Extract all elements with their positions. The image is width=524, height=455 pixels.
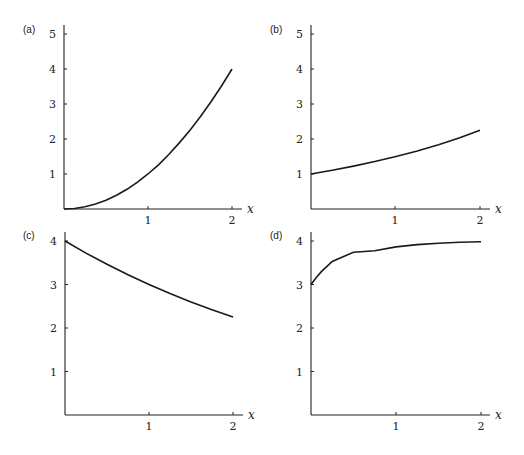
curve — [311, 242, 481, 285]
panel-label: (c) — [23, 230, 35, 241]
y-tick-label: 2 — [296, 133, 303, 146]
y-tick-label: 2 — [296, 322, 303, 335]
panel-label: (b) — [270, 24, 282, 35]
y-tick-label: 5 — [296, 28, 303, 41]
x-tick-label: 1 — [392, 214, 399, 227]
panel-c: (c) 1 2 3 4 1 2 x — [23, 230, 255, 433]
x-tick-label: 2 — [477, 214, 484, 227]
y-tick-label: 1 — [50, 366, 57, 379]
x-tick-label: 2 — [229, 214, 236, 227]
x-tick-label: 1 — [393, 420, 400, 433]
y-tick-label: 3 — [49, 98, 56, 111]
x-tick-label: 1 — [145, 214, 152, 227]
y-tick-label: 2 — [50, 322, 57, 335]
panel-b: (b) 1 2 3 4 5 1 2 x — [270, 24, 502, 227]
y-tick-label: 5 — [49, 28, 56, 41]
panel-label: (a) — [23, 24, 35, 35]
y-tick-label: 3 — [296, 279, 303, 292]
curve — [65, 241, 233, 317]
y-tick-label: 4 — [50, 235, 57, 248]
y-tick-label: 3 — [296, 98, 303, 111]
x-tick-label: 1 — [146, 420, 153, 433]
panel-label: (d) — [270, 230, 282, 241]
y-tick-label: 2 — [49, 133, 56, 146]
curve — [311, 130, 480, 174]
y-tick-label: 1 — [49, 168, 56, 181]
y-tick-label: 3 — [50, 279, 57, 292]
y-tick-label: 4 — [296, 235, 303, 248]
panel-a: (a) 1 2 3 4 5 1 2 x — [23, 24, 254, 227]
y-tick-label: 1 — [296, 366, 303, 379]
figure: (a) 1 2 3 4 5 1 2 x (b) — [0, 0, 524, 455]
x-tick-label: 2 — [230, 420, 237, 433]
x-axis-label: x — [495, 202, 502, 216]
y-tick-label: 4 — [49, 63, 56, 76]
x-axis-label: x — [495, 408, 502, 422]
y-tick-label: 4 — [296, 63, 303, 76]
x-tick-label: 2 — [478, 420, 485, 433]
x-axis-label: x — [248, 408, 255, 422]
x-axis-label: x — [247, 202, 254, 216]
y-tick-label: 1 — [296, 168, 303, 181]
panel-d: (d) 1 2 3 4 1 2 x — [270, 230, 502, 433]
curve — [64, 69, 232, 209]
